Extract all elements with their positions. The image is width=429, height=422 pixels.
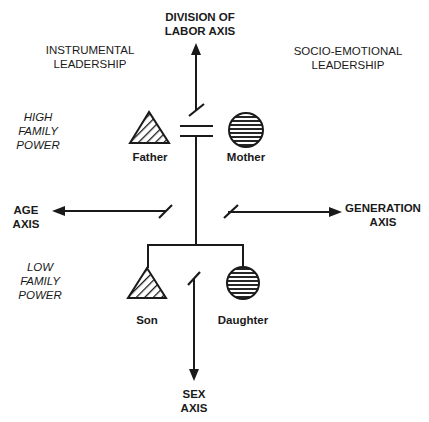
- low-family-power-label: LOW FAMILY POWER: [10, 260, 70, 302]
- mother-circle-icon: [229, 113, 263, 147]
- father-label: Father: [120, 150, 180, 164]
- sex-axis-arrow: [188, 272, 200, 381]
- son-label: Son: [122, 313, 172, 327]
- son-triangle-icon: [128, 268, 166, 298]
- instrumental-leadership-label: INSTRUMENTAL LEADERSHIP: [20, 43, 160, 71]
- daughter-label: Daughter: [208, 313, 278, 327]
- high-family-power-label: HIGH FAMILY POWER: [8, 110, 68, 152]
- age-axis-arrow: [52, 205, 172, 218]
- mother-label: Mother: [216, 150, 276, 164]
- socio-emotional-leadership-label: SOCIO-EMOTIONAL LEADERSHIP: [278, 44, 418, 72]
- children-branch: [147, 244, 244, 268]
- father-triangle-icon: [130, 112, 169, 143]
- division-of-labor-arrow: [189, 43, 204, 116]
- sex-axis-label: SEX AXIS: [174, 387, 214, 415]
- age-axis-label: AGE AXIS: [6, 203, 46, 231]
- marriage-symbol: [180, 126, 213, 136]
- daughter-circle-icon: [227, 267, 259, 299]
- division-of-labor-axis-label: DIVISION OF LABOR AXIS: [150, 10, 250, 38]
- generation-axis-arrow: [224, 205, 342, 218]
- generation-axis-label: GENERATION AXIS: [340, 201, 426, 229]
